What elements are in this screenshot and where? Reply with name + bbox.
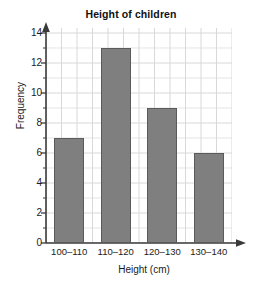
x-tick-label: 100–110 xyxy=(43,246,96,258)
y-tick-label: 10 xyxy=(12,88,42,98)
y-axis-tick-labels: 02468101214 xyxy=(8,0,42,284)
bar xyxy=(147,108,177,243)
y-tick-label: 0 xyxy=(12,238,42,248)
y-tick-label: 14 xyxy=(12,28,42,38)
bar xyxy=(54,138,84,243)
y-tick-label: 12 xyxy=(12,58,42,68)
x-axis-label: Height (cm) xyxy=(44,264,244,275)
y-tick-label: 4 xyxy=(12,178,42,188)
bar xyxy=(194,153,224,243)
y-tick-label: 8 xyxy=(12,118,42,128)
y-tick-label: 2 xyxy=(12,208,42,218)
x-axis-tick-labels: 100–110110–120120–130130–140 xyxy=(46,246,246,262)
y-tick-label: 6 xyxy=(12,148,42,158)
bar xyxy=(101,48,131,243)
x-tick-label: 130–140 xyxy=(183,246,236,258)
x-tick-label: 110–120 xyxy=(90,246,143,258)
x-tick-label: 120–130 xyxy=(136,246,189,258)
bar-chart: Height of children Frequency 02468101214… xyxy=(0,0,262,284)
bar-series xyxy=(46,28,232,243)
